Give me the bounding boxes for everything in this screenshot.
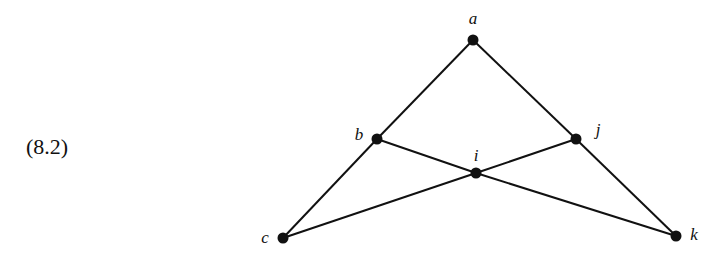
node-label-j: j	[594, 120, 601, 139]
edge-a-j	[473, 40, 576, 139]
edge-i-k	[476, 173, 676, 236]
node-a	[468, 35, 479, 46]
node-label-b: b	[355, 125, 364, 144]
node-label-a: a	[469, 9, 478, 28]
node-i	[471, 168, 482, 179]
edges-group	[283, 40, 676, 238]
equation-number: (8.2)	[26, 134, 68, 160]
nodes-group	[278, 35, 682, 244]
node-k	[671, 231, 682, 242]
node-j	[571, 134, 582, 145]
node-label-i: i	[474, 146, 479, 165]
node-label-k: k	[690, 225, 698, 244]
graph-figure: (8.2) abijck	[0, 0, 718, 260]
node-b	[372, 134, 383, 145]
edge-j-k	[576, 139, 676, 236]
node-c	[278, 233, 289, 244]
edge-a-b	[377, 40, 473, 139]
graph-diagram: abijck	[0, 0, 718, 260]
labels-group: abijck	[261, 9, 698, 247]
node-label-c: c	[261, 228, 269, 247]
edge-b-i	[377, 139, 476, 173]
edge-i-j	[476, 139, 576, 173]
edge-i-c	[283, 173, 476, 238]
